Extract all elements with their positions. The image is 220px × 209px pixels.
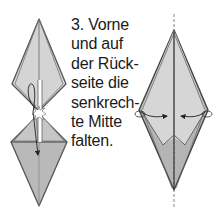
left-lower-kite (11, 112, 67, 206)
instruction-line-2: und auf (71, 34, 143, 53)
step-instruction-text: 3. Vorne und auf der Rück- seite die sen… (71, 15, 143, 151)
right-diamond (139, 30, 208, 190)
instruction-line-7: falten. (71, 131, 143, 150)
left-upper-kite (12, 19, 66, 114)
instruction-line-4: seite die (71, 73, 143, 92)
instruction-line-3: der Rück- (71, 54, 143, 73)
instruction-line-6: te Mitte (71, 112, 143, 131)
instruction-line-5: senkrech- (71, 93, 143, 112)
instruction-line-1: 3. Vorne (71, 15, 143, 34)
